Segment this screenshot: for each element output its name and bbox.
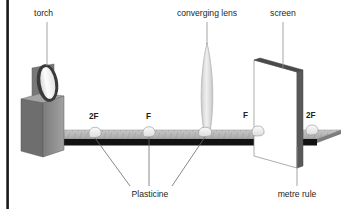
plasticine-blob	[143, 127, 155, 137]
diagram-canvas: torch converging lens screen Plasticine …	[0, 0, 349, 209]
screen	[254, 58, 303, 168]
label-torch: torch	[34, 8, 53, 18]
plasticine-blob	[252, 126, 264, 136]
label-screen: screen	[270, 8, 296, 18]
label-plasticine: Plasticine	[132, 189, 169, 199]
optics-diagram: torch converging lens screen Plasticine …	[0, 0, 349, 209]
torch	[21, 63, 64, 157]
plasticine-blob	[89, 127, 101, 137]
plasticine-blob	[199, 127, 212, 136]
label-converging-lens: converging lens	[177, 8, 237, 18]
plasticine-blob	[306, 125, 318, 135]
converging-lens	[201, 43, 213, 130]
mark-right-f: F	[243, 111, 248, 120]
mark-right-2f: 2F	[306, 111, 316, 120]
mark-left-2f: 2F	[89, 112, 99, 121]
mark-left-f: F	[146, 112, 151, 121]
label-metre-rule: metre rule	[278, 189, 317, 199]
wall-bar	[6, 0, 9, 209]
